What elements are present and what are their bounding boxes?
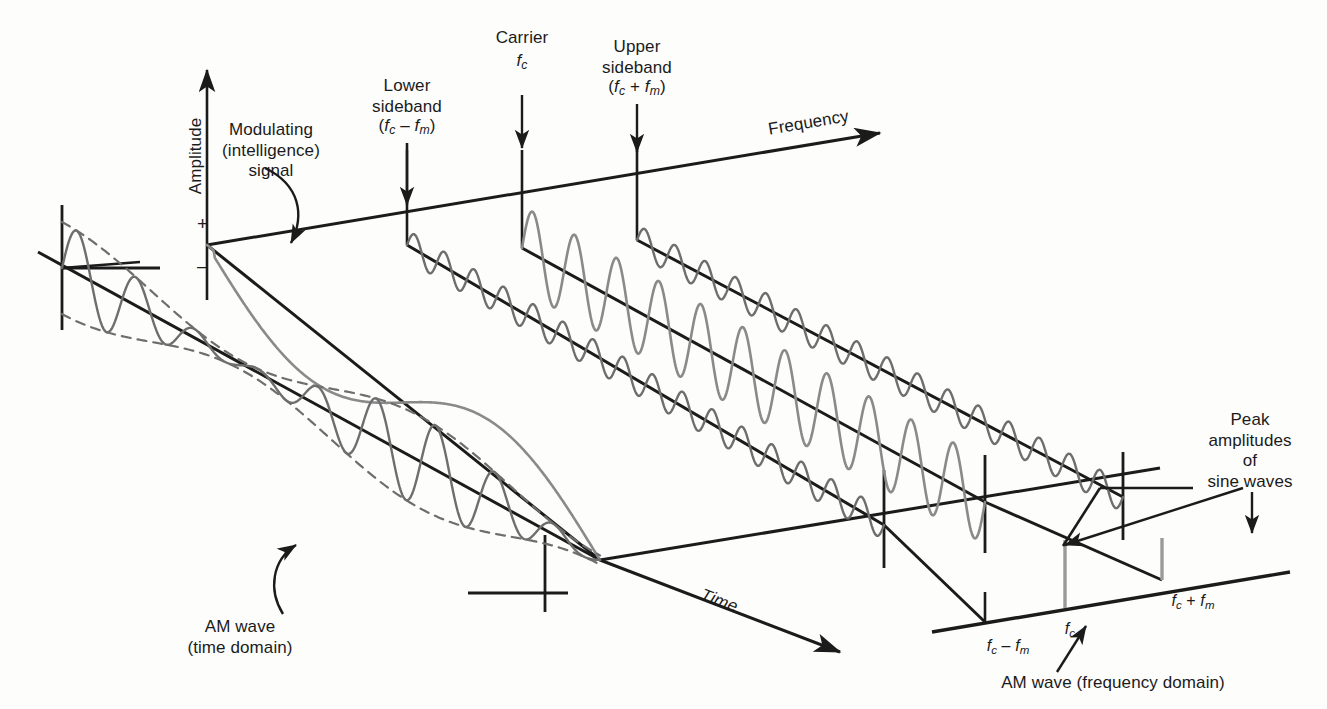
spectrum-base-axis [884, 502, 1290, 632]
wave-am-time-domain [62, 230, 600, 560]
label-carrier-expr: fc [472, 51, 572, 73]
arrow-am-wave-time [274, 545, 296, 614]
label-upper-sideband: Upper sideband [577, 37, 697, 78]
label-lower-sideband-expr: (fc – fm) [347, 116, 467, 138]
tick-label-carrier: fc [1040, 619, 1100, 640]
label-lower-sideband: Lower sideband [347, 76, 467, 117]
figure-canvas: Amplitude + – Frequency Time Modulating … [0, 0, 1327, 709]
label-peak-amplitudes: Peak amplitudes of sine waves [1180, 410, 1320, 493]
wave-lower-sideband [407, 234, 884, 536]
axis-sign-plus: + [197, 212, 208, 235]
envelope-am-lower [62, 314, 600, 565]
label-am-wave-time-domain: AM wave (time domain) [150, 617, 330, 658]
axis-sign-minus: – [197, 254, 208, 277]
waveforms [62, 212, 1123, 565]
label-upper-sideband-expr: (fc + fm) [577, 77, 697, 99]
tick-label-upper-sideband: fc + fm [1138, 591, 1248, 612]
time-domain-frame-2 [468, 535, 568, 612]
envelope-am-upper [62, 222, 600, 555]
arrow-peak-carrier [1065, 488, 1243, 545]
label-am-wave-frequency-domain: AM wave (frequency domain) [968, 673, 1258, 694]
label-modulating-signal: Modulating (intelligence) signal [191, 120, 351, 182]
pointer-arrows [265, 95, 1252, 672]
wave-upper-sideband [637, 229, 1123, 508]
label-carrier: Carrier [472, 28, 572, 49]
